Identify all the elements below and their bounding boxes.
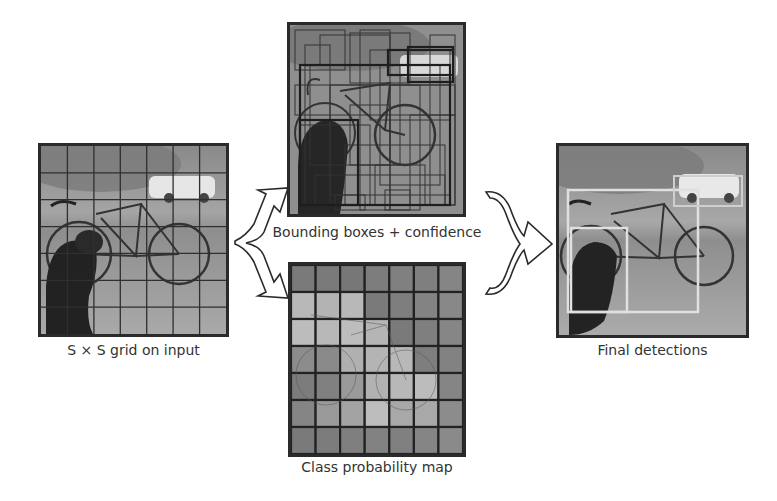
input-label: S × S grid on input — [38, 342, 229, 358]
input-image-panel — [38, 143, 229, 337]
class-probability-label: Class probability map — [288, 459, 466, 475]
bounding-boxes-panel — [287, 22, 466, 217]
class-probability-panel — [288, 262, 466, 457]
final-detections-photo — [559, 146, 746, 335]
bounding-boxes-photo — [290, 25, 463, 214]
grid-overlay — [41, 146, 226, 334]
class-probability-grid — [291, 265, 463, 454]
final-detections-panel — [556, 143, 749, 338]
final-detections-label: Final detections — [556, 342, 749, 358]
bounding-boxes-label: Bounding boxes + confidence — [260, 224, 494, 240]
split-arrow-icon — [232, 184, 292, 302]
merge-arrow-icon — [484, 186, 556, 300]
